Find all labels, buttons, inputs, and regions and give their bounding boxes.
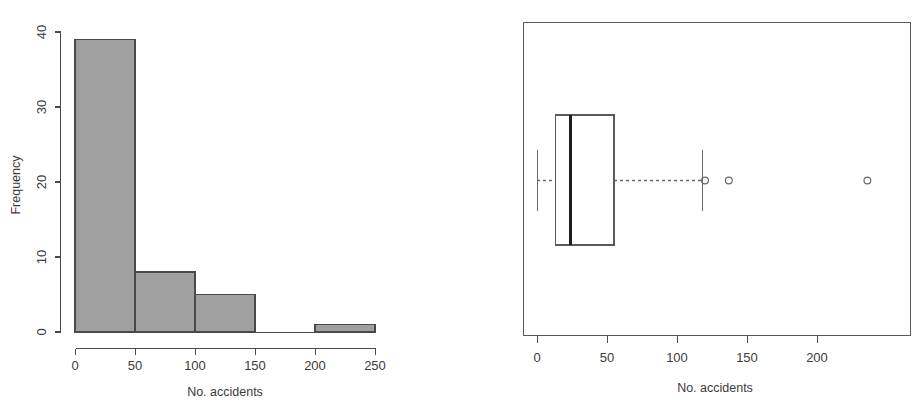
figure-canvas: Frequency 40 30 20 10 0 bbox=[0, 0, 915, 408]
boxplot-outlier-point bbox=[725, 177, 732, 184]
histogram-x-axis bbox=[76, 349, 376, 356]
boxplot-svg: 0 50 100 150 200 No. accidents bbox=[460, 0, 915, 408]
boxplot-plot-frame bbox=[524, 23, 911, 336]
histogram-svg: Frequency 40 30 20 10 0 bbox=[0, 0, 460, 408]
histogram-x-tick-label-250: 250 bbox=[364, 358, 386, 373]
histogram-x-tick-label-150: 150 bbox=[244, 358, 266, 373]
histogram-y-tick-label-40: 40 bbox=[34, 25, 49, 39]
boxplot-whiskers bbox=[537, 150, 703, 211]
histogram-y-tick-label-10: 10 bbox=[34, 250, 49, 264]
histogram-x-tick-label-100: 100 bbox=[184, 358, 206, 373]
histogram-y-tick-label-30: 30 bbox=[34, 100, 49, 114]
histogram-bar-0-50 bbox=[75, 40, 135, 333]
boxplot-x-tick-label-50: 50 bbox=[600, 350, 614, 365]
histogram-bar-50-100 bbox=[135, 272, 195, 332]
boxplot-x-tick-label-150: 150 bbox=[736, 350, 758, 365]
boxplot-outlier-point bbox=[864, 177, 871, 184]
histogram-panel: Frequency 40 30 20 10 0 bbox=[0, 0, 460, 408]
histogram-bars bbox=[75, 40, 375, 333]
histogram-y-axis-title: Frequency bbox=[9, 155, 23, 215]
boxplot-box bbox=[555, 115, 614, 245]
boxplot-panel: 0 50 100 150 200 No. accidents bbox=[460, 0, 915, 408]
histogram-y-axis bbox=[55, 32, 61, 332]
histogram-y-tick-label-20: 20 bbox=[34, 175, 49, 189]
histogram-y-tick-label-0: 0 bbox=[34, 328, 49, 335]
histogram-x-axis-title: No. accidents bbox=[187, 385, 263, 399]
boxplot-x-tick-label-100: 100 bbox=[666, 350, 688, 365]
histogram-bar-200-250 bbox=[315, 325, 375, 333]
boxplot-outliers bbox=[702, 177, 871, 184]
boxplot-x-axis bbox=[538, 336, 818, 343]
histogram-x-tick-label-200: 200 bbox=[304, 358, 326, 373]
histogram-x-tick-label-0: 0 bbox=[71, 358, 78, 373]
boxplot-x-tick-label-0: 0 bbox=[533, 350, 540, 365]
boxplot-x-tick-label-200: 200 bbox=[806, 350, 828, 365]
histogram-bar-100-150 bbox=[195, 295, 255, 333]
histogram-x-tick-label-50: 50 bbox=[128, 358, 142, 373]
boxplot-x-axis-title: No. accidents bbox=[677, 381, 753, 395]
